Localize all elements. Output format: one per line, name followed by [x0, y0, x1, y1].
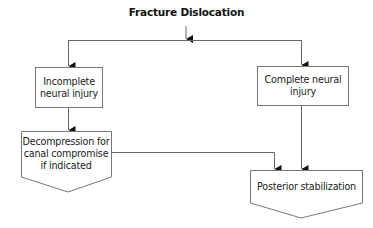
node-decompression-line3: if indicated — [40, 160, 91, 172]
diagram-title: Fracture Dislocation — [0, 6, 373, 18]
node-posterior-line1: Posterior stabilization — [257, 181, 356, 193]
node-decompression-line1: Decompression for — [23, 136, 110, 148]
node-complete-line2: injury — [290, 86, 316, 98]
node-decompression: Decompression for canal compromise if in… — [19, 134, 113, 174]
node-incomplete-line1: Incomplete — [43, 76, 95, 88]
node-complete-line1: Complete neural — [265, 74, 342, 86]
node-incomplete-line2: neural injury — [40, 88, 98, 100]
node-incomplete: Incomplete neural injury — [35, 68, 103, 108]
edge-decompression-posterior — [111, 153, 275, 170]
node-decompression-line2: canal compromise — [24, 148, 109, 160]
node-posterior: Posterior stabilization — [250, 178, 363, 196]
node-complete: Complete neural injury — [257, 66, 349, 106]
